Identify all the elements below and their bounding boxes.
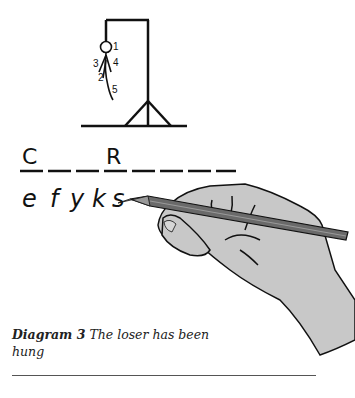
- svg-text:5: 5: [112, 84, 118, 95]
- svg-text:e: e: [22, 185, 37, 213]
- revealed-letter: R: [106, 144, 121, 169]
- svg-text:4: 4: [113, 57, 119, 68]
- svg-text:2: 2: [98, 72, 104, 83]
- gallows: [81, 20, 187, 126]
- caption-label: Diagram 3: [12, 327, 85, 342]
- wrong-guesses: e f y k s: [22, 185, 125, 213]
- svg-text:s: s: [112, 185, 125, 213]
- svg-text:3: 3: [93, 58, 99, 69]
- svg-text:y: y: [69, 185, 85, 213]
- revealed-letter: C: [22, 144, 37, 169]
- svg-text:k: k: [92, 185, 107, 213]
- svg-text:f: f: [50, 185, 62, 213]
- svg-text:1: 1: [113, 41, 119, 52]
- divider: [12, 375, 316, 376]
- hanged-figure: [99, 42, 113, 101]
- figure-caption: Diagram 3 The loser has been hung: [12, 326, 212, 360]
